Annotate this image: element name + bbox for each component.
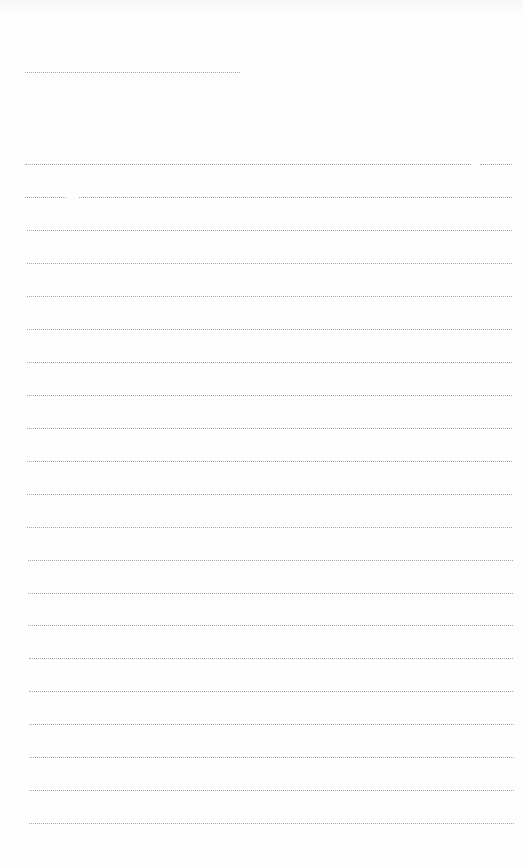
ruled-line xyxy=(27,296,512,297)
ruled-line xyxy=(27,428,512,429)
ruled-line xyxy=(27,494,512,495)
ruled-line xyxy=(27,461,512,462)
ruled-line xyxy=(79,197,512,198)
ruled-line xyxy=(25,164,471,165)
ruled-line xyxy=(27,230,512,231)
ruled-line xyxy=(28,593,513,594)
faded-bleed-through xyxy=(0,0,523,14)
ruled-line xyxy=(29,724,514,725)
ruled-line xyxy=(25,197,66,198)
ruled-line xyxy=(29,658,513,659)
ruled-line xyxy=(28,625,513,626)
ruled-line xyxy=(29,790,514,791)
ruled-line xyxy=(27,362,512,363)
ruled-line xyxy=(29,757,514,758)
ruled-line xyxy=(27,527,512,528)
ruled-line xyxy=(28,560,513,561)
ruled-line xyxy=(27,329,512,330)
ruled-line xyxy=(29,823,514,824)
ruled-line xyxy=(29,691,513,692)
ruled-line xyxy=(27,395,512,396)
ruled-line xyxy=(27,263,512,264)
header-rule xyxy=(25,72,240,73)
ruled-page xyxy=(0,0,523,868)
ruled-line xyxy=(480,164,512,165)
